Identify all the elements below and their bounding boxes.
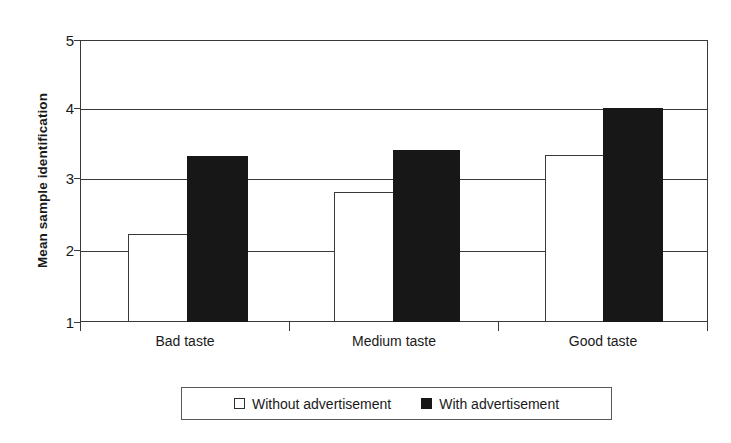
x-tick-3	[707, 322, 708, 331]
legend: Without advertisement With advertisement	[181, 387, 612, 420]
bar-bad-taste-without-advertisement	[128, 234, 188, 322]
x-category-label-good-taste: Good taste	[569, 333, 638, 349]
x-tick-2	[498, 322, 499, 331]
legend-entry-with-advertisement: With advertisement	[421, 396, 559, 412]
x-tick-0	[80, 322, 81, 331]
legend-entry-without-advertisement: Without advertisement	[234, 396, 391, 412]
bar-chart: Mean sample identification 5 4 3 2 1 Bad…	[0, 0, 731, 443]
y-tick-label-1: 1	[34, 314, 74, 331]
x-category-label-bad-taste: Bad taste	[155, 333, 214, 349]
bar-medium-taste-without-advertisement	[334, 192, 394, 322]
bar-medium-taste-with-advertisement	[393, 150, 460, 322]
bars-layer	[80, 40, 708, 322]
open-square-swatch-icon	[234, 398, 245, 409]
legend-label-with-advertisement: With advertisement	[439, 396, 559, 412]
bar-good-taste-with-advertisement	[603, 108, 663, 322]
legend-label-without-advertisement: Without advertisement	[252, 396, 391, 412]
y-tick-label-5: 5	[34, 32, 74, 49]
x-category-label-medium-taste: Medium taste	[352, 333, 436, 349]
bar-bad-taste-with-advertisement	[187, 156, 248, 322]
bar-good-taste-without-advertisement	[545, 155, 604, 322]
y-tick-label-2: 2	[34, 242, 74, 259]
y-tick-label-4: 4	[34, 100, 74, 117]
y-axis-ticks: 5 4 3 2 1	[26, 40, 74, 322]
x-tick-1	[289, 322, 290, 331]
filled-square-swatch-icon	[421, 398, 432, 409]
y-tick-label-3: 3	[34, 170, 74, 187]
